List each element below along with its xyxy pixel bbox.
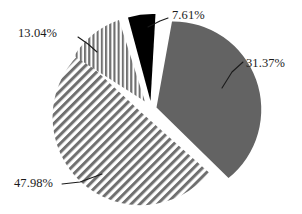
- pie-label-47: 47.98%: [14, 176, 53, 191]
- pie-chart: 7.61% 31.37% 13.04% 47.98%: [0, 0, 302, 214]
- pie-label-31: 31.37%: [246, 56, 285, 71]
- pie-label-13: 13.04%: [18, 26, 57, 41]
- pie-label-7: 7.61%: [172, 8, 205, 23]
